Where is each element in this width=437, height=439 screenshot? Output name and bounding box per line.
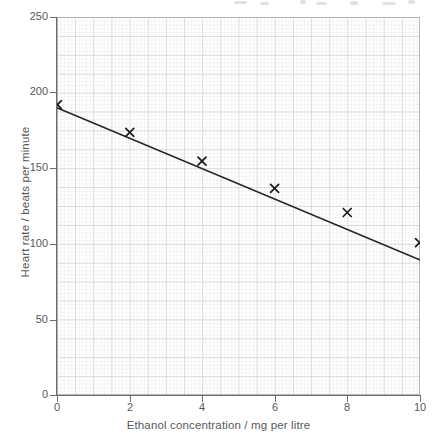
data-point-marker [343,209,351,217]
y-axis-tick-label: 0 [2,389,48,400]
y-axis-tick [50,92,56,93]
best-fit-line [58,108,420,260]
y-axis-tick [50,168,56,169]
chart-figure: 250 200 150 100 50 0 0 2 4 6 8 10 Ethano… [0,0,437,439]
x-axis-line [57,395,421,396]
x-axis-tick-label: 2 [110,401,150,414]
data-point-marker [126,128,134,136]
x-axis-tick-label: 6 [255,401,295,414]
y-axis-title: Heart rate / beats per minute [19,72,31,332]
x-axis-title: Ethanol concentration / mg per litre [0,419,437,431]
x-axis-tick-label: 8 [327,401,367,414]
data-series-layer [57,17,420,395]
data-point-marker [271,184,279,192]
y-axis-line [56,17,57,396]
scan-artifact-strip [230,0,430,7]
x-axis-tick-label: 4 [182,401,222,414]
y-axis-tick [50,320,56,321]
data-point-marker [416,239,420,247]
plot-area [57,17,420,395]
y-axis-tick-label: 250 [2,11,48,22]
y-axis-tick [50,17,56,18]
y-axis-tick [50,244,56,245]
x-axis-tick-label: 0 [37,401,77,414]
data-markers [57,101,420,247]
data-point-marker [198,157,206,165]
x-axis-tick-label: 10 [400,401,437,414]
y-axis-tick [50,395,56,396]
